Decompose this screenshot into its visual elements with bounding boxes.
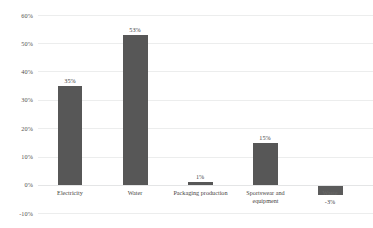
category-label-sportswear-and-equipment: Sportswear and equipment (234, 189, 297, 204)
y-axis-tick-60: 60% (0, 12, 33, 19)
value-label-waste: -3% (310, 198, 350, 205)
value-label-water: 53% (115, 26, 155, 33)
bar-chart: 60% 50% 40% 30% 20% 10% 0% -10% 35% 53% … (0, 0, 373, 228)
category-label-waste: Waste (310, 189, 350, 197)
value-label-electricity: 35% (50, 77, 90, 84)
category-label-water: Water (105, 189, 165, 197)
y-axis-tick-50: 50% (0, 40, 33, 47)
y-axis-tick-minus-10: -10% (0, 210, 33, 217)
value-label-sportswear-and-equipment: 15% (245, 134, 285, 141)
y-axis-tick-30: 30% (0, 96, 33, 103)
category-label-electricity: Electricity (40, 189, 100, 197)
category-label-packaging-production: Packaging production (164, 189, 237, 197)
bar-packaging-production[interactable] (188, 182, 213, 185)
y-axis-tick-20: 20% (0, 125, 33, 132)
bar-water[interactable] (123, 35, 148, 185)
bar-electricity[interactable] (58, 86, 82, 185)
plot-area: 35% 53% 1% 15% -3% Electricity Water Pac… (38, 0, 373, 228)
value-label-packaging-production: 1% (180, 173, 220, 180)
y-axis-tick-40: 40% (0, 68, 33, 75)
y-axis-tick-10: 10% (0, 153, 33, 160)
bar-sportswear-and-equipment[interactable] (253, 143, 278, 185)
y-axis-tick-0: 0% (0, 181, 33, 188)
